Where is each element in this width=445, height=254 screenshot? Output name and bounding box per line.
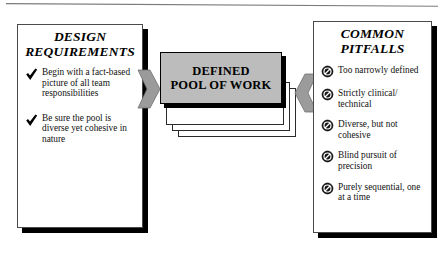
title-line-2: REQUIREMENTS (25, 45, 135, 60)
title-line-1: COMMON (321, 27, 424, 42)
list-item-label: Blind pursuit of precision (338, 149, 424, 171)
center-label-line-2: POOL OF WORK (170, 78, 271, 92)
horizontal-rule (6, 3, 438, 7)
prohibition-icon (321, 182, 334, 195)
design-requirements-list: Begin with a fact-based picture of all t… (25, 67, 135, 145)
title-line-2: PITFALLS (321, 42, 424, 57)
title-line-1: DESIGN (25, 30, 135, 45)
list-item: Be sure the pool is diverse yet cohesive… (25, 113, 135, 145)
list-item: Begin with a fact-based picture of all t… (25, 67, 135, 99)
common-pitfalls-panel: COMMON PITFALLS Too narrowly defined (313, 21, 432, 233)
list-item-label: Begin with a fact-based picture of all t… (42, 67, 135, 99)
prohibition-icon (321, 88, 334, 101)
list-item-label: Purely sequential, one at a time (338, 181, 424, 203)
check-icon (25, 68, 38, 81)
prohibition-icon (321, 65, 334, 78)
panel-content: DESIGN REQUIREMENTS Begin with a fact-ba… (17, 24, 143, 228)
stack-sheet-front: DEFINED POOL OF WORK (160, 52, 282, 104)
defined-pool-of-work-stack: DEFINED POOL OF WORK (160, 52, 298, 142)
center-label-line-1: DEFINED (170, 64, 271, 78)
prohibition-icon (321, 150, 334, 163)
list-item: Diverse, but not cohesive (321, 118, 424, 140)
list-item-label: Strictly clinical/ technical (338, 87, 424, 109)
list-item: Too narrowly defined (321, 64, 424, 78)
list-item-label: Be sure the pool is diverse yet cohesive… (42, 113, 135, 145)
center-label: DEFINED POOL OF WORK (170, 64, 271, 92)
list-item: Blind pursuit of precision (321, 149, 424, 171)
list-item-label: Too narrowly defined (338, 64, 418, 76)
prohibition-icon (321, 119, 334, 132)
arrow-right-into-center (137, 58, 161, 120)
panel-content: COMMON PITFALLS Too narrowly defined (313, 21, 432, 233)
list-item: Strictly clinical/ technical (321, 87, 424, 109)
design-requirements-title: DESIGN REQUIREMENTS (25, 30, 135, 59)
list-item: Purely sequential, one at a time (321, 181, 424, 203)
stack-sheet-face: DEFINED POOL OF WORK (160, 52, 282, 104)
common-pitfalls-title: COMMON PITFALLS (321, 27, 424, 56)
check-icon (25, 114, 38, 127)
list-item-label: Diverse, but not cohesive (338, 118, 424, 140)
common-pitfalls-list: Too narrowly defined Strictly clinical/ … (321, 64, 424, 203)
diagram-canvas: DESIGN REQUIREMENTS Begin with a fact-ba… (0, 0, 445, 254)
design-requirements-panel: DESIGN REQUIREMENTS Begin with a fact-ba… (17, 24, 143, 228)
